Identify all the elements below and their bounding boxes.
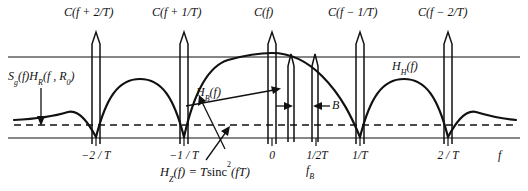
fb-label-subscript: B [309, 172, 314, 181]
tick-label-zero: 0 [262, 150, 282, 162]
tick-label-1t: 1/T [344, 150, 376, 162]
tick-label-2t: 2 / T [430, 150, 466, 162]
noise-psd-R-subscript: 0 [67, 78, 71, 87]
carrier-label-plus1: C(f + 1/T) [152, 6, 201, 18]
hb-label-main: H [196, 85, 205, 99]
noise-psd-label: Sg(f)HR(f , R0) [8, 70, 75, 82]
carrier-label-minus1: C(f − 1/T) [328, 6, 377, 18]
level-lines [8, 57, 520, 138]
fb-label: fB [306, 164, 314, 176]
hz-caption-leader-arrowhead [221, 126, 230, 136]
hz-formula-exponent: 2 [227, 160, 231, 169]
hb-edge-spike-lower [288, 54, 294, 142]
hz-formula-subscript: Z [169, 175, 173, 184]
noise-psd-tail: (f , R [43, 69, 67, 83]
hb-label-subscript: B [205, 94, 210, 103]
hz-formula-main: H [160, 165, 169, 179]
carrier-label-minus2: C(f − 2/T) [418, 6, 467, 18]
hh-label-main: H [392, 59, 401, 73]
bandwidth-label: B [332, 99, 339, 111]
noise-psd-H-subscript: R [38, 78, 43, 87]
hz-formula-caption: HZ(f) = Tsinc2(fT) [160, 166, 250, 179]
hz-lobe-left-outer [96, 79, 184, 137]
noise-psd-end: ) [71, 69, 75, 83]
hh-label-subscript: H [401, 68, 407, 77]
hh-label-tail: (f) [406, 59, 417, 73]
hb-curve-pointer-arrow [198, 95, 225, 149]
carrier-label-zero: C(f) [254, 6, 273, 18]
noise-psd-S-subscript: g [14, 78, 18, 87]
tick-label-minus-1t: −1 / T [164, 150, 204, 162]
hz-formula-mid: (f) = T [173, 165, 206, 179]
spectrum-plot [0, 0, 528, 191]
noise-psd-mid: (f)H [18, 69, 38, 83]
axis-label-f: f [498, 148, 501, 163]
hb-label-tail: (f) [210, 85, 221, 99]
hb-filter-label: HB(f) [196, 86, 221, 98]
hz-caption-leader-arrow [206, 126, 230, 160]
bandwidth-b-arrows [276, 102, 330, 110]
noise-floor-leader-arrow [37, 88, 45, 126]
hz-lobe-right-outer [360, 79, 448, 137]
hz-formula-sinc: sinc [207, 165, 227, 179]
tick-label-minus-2t: −2 / T [76, 150, 116, 162]
hh-filter-label: HH(f) [392, 60, 418, 72]
spectrum-figure: C(f + 2/T) C(f + 1/T) C(f) C(f − 1/T) C(… [0, 0, 528, 191]
hz-formula-argument: (fT) [231, 165, 250, 179]
axis-tick-marks [96, 138, 448, 146]
tick-label-half-1t: 1/2T [298, 150, 336, 162]
carrier-label-plus2: C(f + 2/T) [64, 6, 113, 18]
